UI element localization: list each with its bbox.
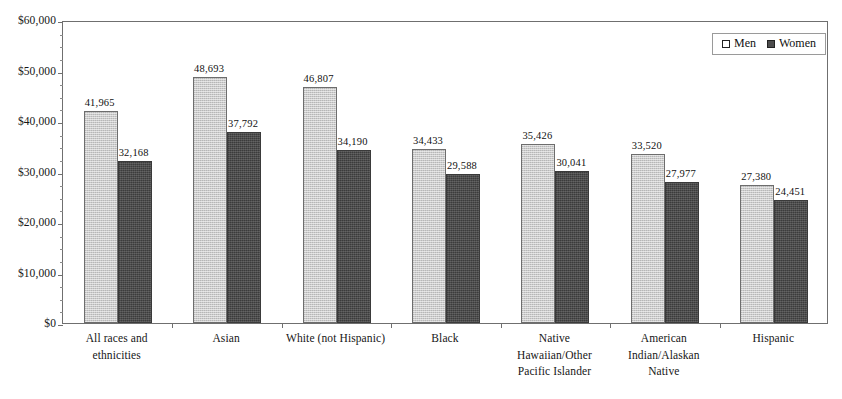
- y-axis-major-tick: [58, 325, 63, 326]
- filled-square-swatch-icon: [767, 40, 775, 48]
- y-axis-minor-tick: [60, 35, 63, 36]
- y-axis-tick-label: $10,000: [0, 268, 56, 280]
- bar-women: [446, 174, 480, 323]
- y-axis-minor-tick: [60, 300, 63, 301]
- x-axis-category-label-line: Hispanic: [752, 330, 794, 347]
- legend-item-men: Men: [722, 37, 756, 50]
- bar-women: [337, 150, 371, 323]
- legend-label-women: Women: [779, 37, 816, 50]
- bar-value-label: 34,433: [413, 136, 443, 147]
- open-square-swatch-icon: [722, 40, 730, 48]
- x-axis-tick: [282, 323, 283, 328]
- y-axis-major-tick: [58, 73, 63, 74]
- bar-men: [740, 185, 774, 323]
- y-axis-minor-tick: [60, 287, 63, 288]
- x-axis-category-label: Asian: [212, 330, 239, 347]
- y-axis-major-tick: [58, 22, 63, 23]
- x-axis-category-label-line: Pacific Islander: [517, 363, 592, 380]
- y-axis-minor-tick: [60, 249, 63, 250]
- y-axis-minor-tick: [60, 85, 63, 86]
- bar-value-label: 37,792: [228, 119, 258, 130]
- bar-value-label: 48,693: [194, 64, 224, 75]
- x-axis-category-label: All races andethnicities: [86, 330, 148, 363]
- y-axis-major-tick: [58, 123, 63, 124]
- y-axis-minor-tick: [60, 136, 63, 137]
- y-axis-tick-label: $0: [0, 318, 56, 330]
- x-axis-tick: [391, 323, 392, 328]
- bar-value-label: 27,977: [666, 169, 696, 180]
- bar-value-label: 29,588: [447, 161, 477, 172]
- bar-women: [665, 182, 699, 323]
- bar-value-label: 30,041: [556, 158, 586, 169]
- y-axis-minor-tick: [60, 237, 63, 238]
- y-axis-major-tick: [58, 174, 63, 175]
- bar-value-label: 27,380: [741, 172, 771, 183]
- bar-men: [631, 154, 665, 323]
- x-axis-category-labels: All races andethnicitiesAsianWhite (not …: [0, 330, 842, 399]
- y-axis-minor-tick: [60, 312, 63, 313]
- legend-label-men: Men: [734, 37, 756, 50]
- x-axis-category-label-line: Asian: [212, 330, 239, 347]
- y-axis-minor-tick: [60, 211, 63, 212]
- y-axis-major-tick: [58, 224, 63, 225]
- y-axis-minor-tick: [60, 186, 63, 187]
- y-axis-tick-label: $50,000: [0, 66, 56, 78]
- bar-men: [193, 77, 227, 323]
- x-axis-category-label-line: White (not Hispanic): [286, 330, 385, 347]
- x-axis-tick: [501, 323, 502, 328]
- y-axis-minor-tick: [60, 60, 63, 61]
- y-axis-major-tick: [58, 275, 63, 276]
- bar-men: [303, 87, 337, 323]
- y-axis-minor-tick: [60, 98, 63, 99]
- y-axis-tick-label: $30,000: [0, 167, 56, 179]
- x-axis-category-label: Hispanic: [752, 330, 794, 347]
- x-axis-category-label-line: American: [628, 330, 700, 347]
- bar-women: [118, 161, 152, 323]
- x-axis-tick: [172, 323, 173, 328]
- bars-layer: [63, 22, 827, 323]
- x-axis-category-label: AmericanIndian/AlaskanNative: [628, 330, 700, 380]
- bar-women: [227, 132, 261, 323]
- x-axis-tick: [610, 323, 611, 328]
- x-axis-category-label: NativeHawaiian/OtherPacific Islander: [517, 330, 592, 380]
- x-axis-category-label: Black: [431, 330, 458, 347]
- x-axis-category-label-line: Black: [431, 330, 458, 347]
- bar-value-label: 34,190: [338, 137, 368, 148]
- y-axis-minor-tick: [60, 110, 63, 111]
- bar-men: [412, 149, 446, 323]
- x-axis-category-label-line: Native: [628, 363, 700, 380]
- bar-women: [555, 171, 589, 323]
- x-axis-category-label: White (not Hispanic): [286, 330, 385, 347]
- bar-value-label: 41,965: [85, 98, 115, 109]
- x-axis-category-label-line: All races and: [86, 330, 148, 347]
- y-axis-tick-label: $20,000: [0, 217, 56, 229]
- chart-legend: Men Women: [712, 33, 826, 55]
- y-axis-minor-tick: [60, 199, 63, 200]
- y-axis-minor-tick: [60, 262, 63, 263]
- bar-value-label: 46,807: [304, 74, 334, 85]
- bar-value-label: 33,520: [632, 141, 662, 152]
- x-axis-category-label-line: Native: [517, 330, 592, 347]
- x-axis-category-label-line: Hawaiian/Other: [517, 347, 592, 364]
- x-axis-tick: [720, 323, 721, 328]
- bar-value-label: 32,168: [119, 148, 149, 159]
- x-axis-category-label-line: ethnicities: [86, 347, 148, 364]
- bar-chart: $60,000$50,000$40,000$30,000$20,000$10,0…: [0, 0, 842, 399]
- bar-men: [84, 111, 118, 323]
- y-axis-tick-label: $60,000: [0, 15, 56, 27]
- y-axis-minor-tick: [60, 47, 63, 48]
- bar-value-label: 24,451: [775, 187, 805, 198]
- plot-area: [62, 21, 828, 324]
- legend-item-women: Women: [767, 37, 816, 50]
- y-axis-tick-label: $40,000: [0, 116, 56, 128]
- bar-women: [774, 200, 808, 323]
- y-axis-minor-tick: [60, 148, 63, 149]
- bar-value-label: 35,426: [522, 131, 552, 142]
- x-axis-category-label-line: Indian/Alaskan: [628, 347, 700, 364]
- bar-men: [521, 144, 555, 323]
- y-axis-minor-tick: [60, 161, 63, 162]
